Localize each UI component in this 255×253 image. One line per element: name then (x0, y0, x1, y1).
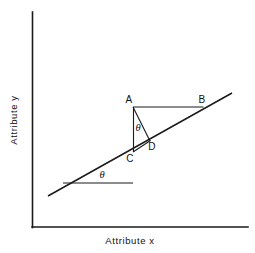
x-axis-label: Attribute x (105, 235, 154, 246)
point-label-c: C (126, 153, 133, 164)
y-axis-label: Attribute y (8, 95, 19, 144)
regression-line (48, 93, 232, 196)
angle-label-acd: θ (135, 122, 140, 133)
geometry-diagram: A B C D θ θ Attribute x Attribute y (0, 0, 255, 253)
point-label-b: B (199, 94, 206, 105)
figure-container: A B C D θ θ Attribute x Attribute y (0, 0, 255, 253)
angle-label-slope: θ (99, 169, 104, 180)
point-label-d: D (148, 141, 155, 152)
point-label-a: A (126, 94, 133, 105)
